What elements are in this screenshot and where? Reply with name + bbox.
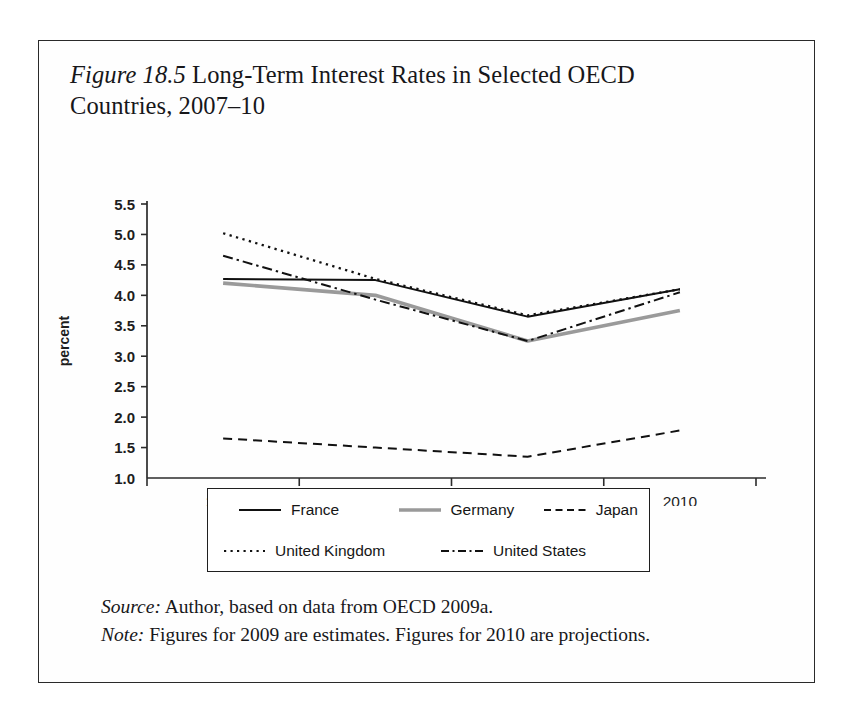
legend-label-france: France	[291, 501, 339, 519]
figure-number: Figure 18.5	[70, 61, 186, 88]
figure-footnotes: Source: Author, based on data from OECD …	[101, 593, 801, 648]
legend-label-germany: Germany	[451, 501, 515, 519]
legend-item-united-kingdom: United Kingdom	[222, 542, 440, 560]
legend-swatch-dashed-icon	[543, 503, 587, 517]
data-series-lines	[223, 233, 680, 456]
y-tick-label: 3.5	[114, 317, 135, 334]
series-line-japan	[223, 431, 680, 457]
legend-item-japan: Japan	[543, 501, 649, 519]
figure-note-line: Note: Figures for 2009 are estimates. Fi…	[101, 621, 801, 649]
legend-label-united-kingdom: United Kingdom	[275, 542, 385, 560]
y-tick-label: 4.5	[114, 256, 135, 273]
legend-row: United Kingdom United States	[208, 530, 649, 571]
y-tick-label: 5.5	[114, 196, 135, 213]
figure-frame: Figure 18.5 Long-Term Interest Rates in …	[38, 40, 815, 683]
legend-swatch-dash-dot-icon	[440, 544, 484, 558]
source-text: Author, based on data from OECD 2009a.	[161, 596, 493, 617]
series-line-france	[223, 279, 680, 317]
note-text: Figures for 2009 are estimates. Figures …	[144, 624, 650, 645]
x-tick-label: 2010	[663, 493, 698, 506]
chart-legend: France Germany Japan United Kingdom	[207, 488, 650, 572]
legend-row: France Germany Japan	[208, 489, 649, 530]
series-line-germany	[223, 283, 680, 341]
chart-plot-area: 5.55.04.54.03.53.02.52.01.51.0 200720082…	[39, 146, 816, 506]
legend-label-japan: Japan	[596, 501, 638, 519]
y-tick-label: 1.0	[114, 470, 135, 487]
y-tick-label: 3.0	[114, 348, 135, 365]
y-tick-label: 4.0	[114, 287, 135, 304]
legend-swatch-dotted-icon	[222, 544, 266, 558]
figure-title: Figure 18.5 Long-Term Interest Rates in …	[70, 59, 730, 122]
y-tick-label: 2.0	[114, 409, 135, 426]
legend-item-united-states: United States	[440, 542, 640, 560]
line-chart-svg: 5.55.04.54.03.53.02.52.01.51.0 200720082…	[39, 146, 816, 506]
legend-item-germany: Germany	[398, 501, 543, 519]
legend-label-united-states: United States	[493, 542, 586, 560]
figure-source-line: Source: Author, based on data from OECD …	[101, 593, 801, 621]
series-line-united-kingdom	[223, 233, 680, 315]
source-lead: Source:	[101, 596, 161, 617]
y-tick-label: 2.5	[114, 378, 135, 395]
y-axis-title: percent	[56, 315, 72, 366]
legend-swatch-solid-gray-icon	[398, 503, 442, 517]
x-axis-tick-marks	[147, 478, 756, 486]
y-axis-tick-marks	[141, 204, 147, 448]
y-axis-tick-labels: 5.55.04.54.03.53.02.52.01.51.0	[114, 196, 135, 487]
note-lead: Note:	[101, 624, 144, 645]
y-tick-label: 1.5	[114, 439, 135, 456]
y-tick-label: 5.0	[114, 226, 135, 243]
legend-swatch-solid-black-icon	[238, 503, 282, 517]
legend-item-france: France	[238, 501, 398, 519]
